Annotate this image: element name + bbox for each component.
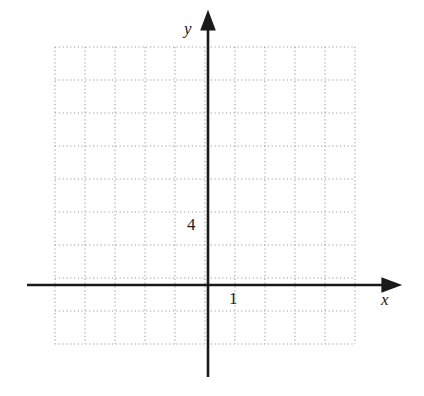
x-axis-label: x (381, 291, 389, 308)
grid-vertical-lines (55, 47, 355, 344)
figure-canvas: y x 4 1 (0, 0, 424, 396)
y-axis-label: y (184, 20, 192, 37)
x-axis-tick-label-1: 1 (229, 290, 238, 307)
y-axis-tick-label-4: 4 (187, 216, 196, 233)
coordinate-plane (0, 0, 424, 396)
